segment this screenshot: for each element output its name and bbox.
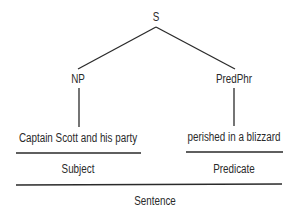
node-s: S [153, 10, 160, 24]
branch-s-predphr [156, 27, 235, 69]
phrase-predicate: perished in a blizzard [188, 130, 281, 144]
node-np: NP [71, 72, 85, 86]
branch-s-np [78, 27, 156, 69]
tree-lines [0, 0, 298, 216]
node-predphr: PredPhr [216, 72, 252, 86]
label-predicate: Predicate [213, 162, 255, 176]
phrase-subject: Captain Scott and his party [19, 131, 137, 145]
label-subject: Subject [62, 162, 95, 176]
sentence-underline [16, 184, 282, 185]
label-sentence: Sentence [134, 194, 176, 208]
